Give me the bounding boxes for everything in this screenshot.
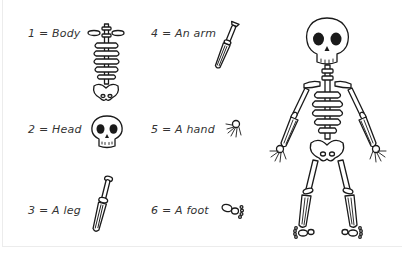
label-leg: 3 = A leg (28, 204, 81, 217)
label-foot: 6 = A foot (151, 204, 209, 217)
skull-icon (89, 114, 125, 150)
full-skeleton-figure (261, 12, 403, 242)
skeleton-skull (307, 18, 349, 64)
worksheet-canvas: 1 = Body 2 = Head 3 = A leg 4 = An arm 5… (2, 0, 402, 247)
label-head: 2 = Head (28, 123, 82, 136)
hand-bones-icon (223, 119, 245, 139)
skeleton-left-leg (294, 160, 318, 238)
leg-bone-icon (89, 175, 115, 235)
label-hand: 5 = A hand (151, 123, 215, 136)
label-arm: 4 = An arm (151, 27, 216, 40)
skeleton-left-arm (270, 88, 309, 162)
skeleton-body-icon (87, 18, 127, 104)
skeleton-right-arm (348, 88, 386, 162)
label-body: 1 = Body (28, 27, 81, 40)
foot-bones-icon (221, 202, 247, 220)
arm-bone-icon (211, 20, 241, 72)
skeleton-right-leg (338, 160, 362, 238)
